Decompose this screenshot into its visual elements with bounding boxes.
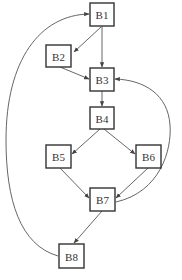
node-label: B1 [96,9,109,21]
edge-b7-b3-back [115,79,170,202]
node-label: B5 [52,151,65,163]
edge-b1-b2 [74,27,101,52]
edge-b2-b3 [60,67,89,79]
edge-b5-b7 [60,168,89,198]
node-b1: B1 [90,3,114,26]
node-b8: B8 [59,244,84,268]
node-b6: B6 [136,145,161,168]
node-label: B2 [52,51,65,63]
node-b7: B7 [90,188,115,211]
node-b2: B2 [46,45,71,67]
node-label: B6 [142,151,155,163]
node-b5: B5 [46,145,71,168]
node-b3: B3 [90,68,114,91]
edge-b7-b8 [74,211,102,243]
control-flow-graph: B1 B2 B3 B4 B5 B6 B7 B8 [0,0,182,280]
node-label: B7 [96,194,109,206]
edge-b6-b7 [116,168,148,198]
edge-b4-b6 [104,129,135,154]
node-label: B3 [96,74,109,86]
node-label: B8 [65,251,78,263]
node-b4: B4 [90,107,114,129]
edge-b4-b5 [72,129,100,154]
node-label: B4 [96,113,109,125]
